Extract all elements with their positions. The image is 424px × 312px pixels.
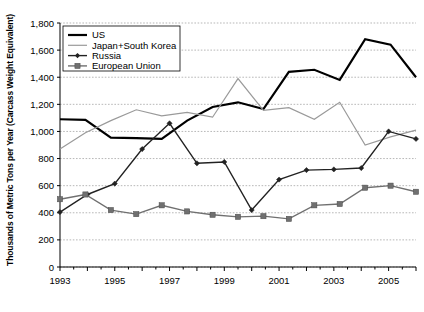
y-tick-label: 1,600 [30, 45, 54, 56]
data-point-marker [83, 192, 88, 197]
data-point-marker [134, 212, 139, 217]
y-tick-label: 800 [38, 153, 54, 164]
data-point-marker [388, 183, 393, 188]
chart-legend: USJapan+South KoreaRussiaEuropean Union [63, 26, 180, 71]
y-tick-label: 200 [38, 234, 54, 245]
y-tick-label: 1,200 [30, 99, 54, 110]
data-point-marker [235, 214, 240, 219]
x-tick-label: 1997 [159, 275, 180, 286]
data-point-marker [108, 207, 113, 212]
y-tick-label: 400 [38, 207, 54, 218]
data-point-marker [363, 185, 368, 190]
data-point-marker [159, 203, 164, 208]
data-point-marker [261, 214, 266, 219]
y-tick-label: 1,000 [30, 126, 54, 137]
legend-label-european-union: European Union [92, 60, 161, 71]
chart-container: Thousands of Metric Tons per Year (Carca… [0, 0, 424, 312]
legend-marker [75, 63, 80, 68]
data-point-marker [210, 212, 215, 217]
data-point-marker [57, 197, 62, 202]
y-tick-label: 600 [38, 180, 54, 191]
x-tick-label: 1995 [104, 275, 125, 286]
y-tick-label: 0 [49, 262, 54, 273]
data-point-marker [337, 201, 342, 206]
x-tick-label: 2005 [378, 275, 399, 286]
x-tick-label: 2001 [269, 275, 290, 286]
data-point-marker [413, 189, 418, 194]
data-point-marker [286, 216, 291, 221]
data-point-marker [185, 209, 190, 214]
x-tick-label: 1999 [214, 275, 235, 286]
y-tick-label: 1,800 [30, 18, 54, 29]
y-tick-label: 1,400 [30, 72, 54, 83]
data-point-marker [304, 167, 309, 172]
x-tick-label: 1993 [49, 275, 70, 286]
y-axis-tick-labels: 02004006008001,0001,2001,4001,6001,800 [30, 18, 54, 273]
x-axis-tickmarks [60, 267, 416, 271]
data-point-marker [413, 136, 418, 141]
series-line-european-union [60, 186, 416, 219]
data-point-marker [331, 167, 336, 172]
data-point-marker [312, 203, 317, 208]
x-tick-label: 2003 [323, 275, 344, 286]
x-axis-tick-labels: 1993199519971999200120032005 [49, 275, 399, 286]
chart-plot: 02004006008001,0001,2001,4001,6001,800 1… [0, 0, 424, 312]
